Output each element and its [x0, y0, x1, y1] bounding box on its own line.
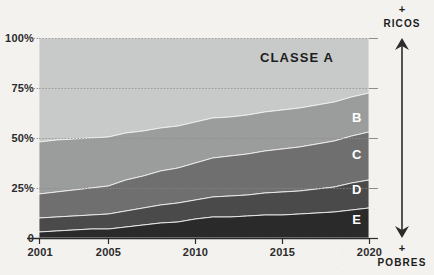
rich-poor-axis-arrow	[395, 38, 409, 238]
area-bands	[39, 38, 369, 238]
x-tick-label-2015: 2015	[270, 246, 295, 258]
y-tick-label-50: 50%	[11, 132, 34, 144]
y-axis-ticks: 025%50%75%100%	[5, 32, 39, 244]
pobres-plus-sign: +	[399, 242, 405, 254]
right-edge-ticks	[369, 39, 378, 239]
band-label-e: E	[352, 212, 361, 227]
x-tick-label-2005: 2005	[96, 246, 121, 258]
band-label-d: D	[352, 182, 362, 197]
y-tick-label-100: 100%	[5, 32, 34, 44]
x-axis-ticks: 20012005201020152020	[28, 238, 383, 258]
pobres-label: POBRES	[378, 257, 427, 268]
y-tick-label-75: 75%	[11, 82, 34, 94]
ricos-plus-sign: +	[399, 3, 405, 15]
band-label-b: B	[352, 110, 362, 125]
chart-figure: 025%50%75%100% 20012005201020152020 CLAS…	[0, 0, 434, 275]
ricos-label: RICOS	[383, 18, 420, 29]
x-tick-label-2001: 2001	[28, 246, 53, 258]
classe-a-label: CLASSE A	[260, 50, 334, 65]
stacked-area-chart: 025%50%75%100% 20012005201020152020 CLAS…	[0, 0, 434, 275]
band-label-c: C	[352, 147, 362, 162]
x-tick-label-2010: 2010	[183, 246, 208, 258]
y-tick-label-25: 25%	[11, 182, 34, 194]
